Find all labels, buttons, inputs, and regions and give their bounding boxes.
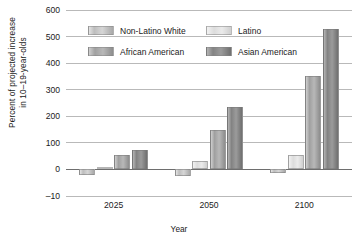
- gridline-400: [66, 63, 352, 64]
- gridline-600: [66, 10, 352, 11]
- legend: Non-Latino White Latino African American…: [88, 20, 316, 62]
- y-tick-label-200: 200: [14, 111, 60, 121]
- y-tick-label-100: 100: [14, 138, 60, 148]
- y-tick-label-300: 300: [14, 85, 60, 95]
- legend-label-3: Asian American: [238, 47, 297, 57]
- legend-swatch-icon-0: [88, 26, 114, 35]
- x-axis-title: Year: [0, 224, 358, 234]
- legend-label-0: Non-Latino White: [120, 26, 186, 36]
- legend-swatch-icon-3: [206, 47, 232, 56]
- bar-2050-non-latino-white: [175, 169, 191, 175]
- bar-2025-latino: [97, 167, 113, 170]
- y-tick-label-500: 500: [14, 32, 60, 42]
- y-axis-title: Percent of projected increase in 10–19-y…: [7, 0, 28, 148]
- legend-swatch-icon-2: [88, 47, 114, 56]
- bar-2100-asian-american: [323, 29, 339, 170]
- bar-2100-latino: [288, 155, 304, 170]
- bar-2025-non-latino-white: [79, 169, 95, 175]
- bar-2025-african-american: [114, 155, 130, 170]
- bar-2050-african-american: [210, 130, 226, 170]
- legend-label-2: African American: [120, 47, 184, 57]
- x-tick-label-2100: 2100: [259, 200, 349, 210]
- y-tick-label-400: 400: [14, 58, 60, 68]
- y-tick-label-600: 600: [14, 5, 60, 15]
- legend-item-3: Asian American: [206, 47, 316, 57]
- legend-item-1: Latino: [206, 26, 316, 36]
- x-tick-label-2050: 2050: [164, 200, 254, 210]
- y-tick-label-0: 0: [14, 164, 60, 174]
- legend-item-0: Non-Latino White: [88, 26, 206, 36]
- bar-2100-african-american: [305, 76, 321, 169]
- legend-item-2: African American: [88, 47, 206, 57]
- x-tick-label-2025: 2025: [69, 200, 159, 210]
- bar-2050-latino: [192, 161, 208, 169]
- bar-2025-asian-american: [132, 150, 148, 170]
- legend-label-1: Latino: [238, 26, 261, 36]
- bar-2050-asian-american: [227, 107, 243, 169]
- bar-chart-figure: Percent of projected increase in 10–19-y…: [0, 0, 358, 243]
- y-tick-label--10: –10: [14, 191, 60, 201]
- legend-swatch-icon-1: [206, 26, 232, 35]
- bar-2100-non-latino-white: [270, 169, 286, 173]
- gridline--10: [66, 196, 352, 197]
